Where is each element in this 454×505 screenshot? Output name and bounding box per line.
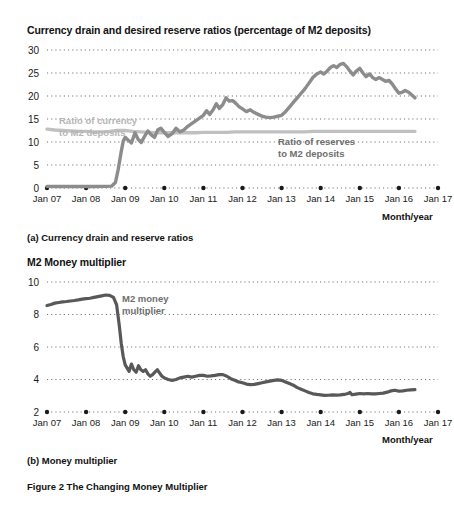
panel-b-title: M2 Money multiplier xyxy=(27,256,126,268)
annotation-reserves-ratio: to M2 deposits xyxy=(278,148,345,159)
x-tick-dot xyxy=(123,410,127,414)
x-tick-label: Jan 09 xyxy=(111,417,140,428)
x-tick-label: Jan 12 xyxy=(228,417,257,428)
x-tick-label: Jan 15 xyxy=(346,417,375,428)
annotation-currency-ratio: to M2 deposits xyxy=(59,127,126,138)
x-tick-dot xyxy=(358,186,362,190)
annotation-reserves-ratio: Ratio of reserves xyxy=(278,136,355,147)
y-tick-label: 10 xyxy=(28,137,40,148)
y-tick-label: 30 xyxy=(28,45,40,56)
x-tick-dot xyxy=(201,186,205,190)
x-tick-dot xyxy=(436,410,440,414)
annotation-money-multiplier: M2 money xyxy=(122,293,169,304)
x-tick-label: Jan 16 xyxy=(385,417,414,428)
x-tick-dot xyxy=(279,186,283,190)
x-tick-dot xyxy=(436,186,440,190)
x-tick-dot xyxy=(201,410,205,414)
x-tick-label: Jan 14 xyxy=(306,193,335,204)
x-tick-label: Jan 10 xyxy=(150,193,179,204)
x-tick-dot xyxy=(319,410,323,414)
series-line xyxy=(47,295,415,395)
x-tick-dot xyxy=(162,186,166,190)
figure-caption: Figure 2 The Changing Money Multiplier xyxy=(27,481,208,492)
annotation-money-multiplier: multiplier xyxy=(122,305,165,316)
x-tick-dot xyxy=(84,410,88,414)
y-tick-label: 4 xyxy=(33,374,39,385)
x-tick-label: Jan 10 xyxy=(150,417,179,428)
x-tick-label: Jan 17 xyxy=(424,417,453,428)
panel-a-caption: (a) Currency drain and reserve ratios xyxy=(27,232,193,243)
y-tick-label: 8 xyxy=(33,309,39,320)
annotation-currency-ratio: Ratio of currency xyxy=(59,115,138,126)
x-tick-label: Jan 11 xyxy=(189,417,217,428)
x-tick-label: Jan 11 xyxy=(189,193,217,204)
x-tick-dot xyxy=(319,186,323,190)
x-tick-label: Jan 15 xyxy=(346,193,375,204)
x-tick-label: Jan 07 xyxy=(33,193,62,204)
x-tick-label: Jan 14 xyxy=(306,417,335,428)
panel-b-chart: 246810Jan 07Jan 08Jan 09Jan 10Jan 11Jan … xyxy=(0,270,454,430)
x-tick-dot xyxy=(397,186,401,190)
y-tick-label: 25 xyxy=(28,68,40,79)
x-tick-dot xyxy=(358,410,362,414)
y-tick-label: 5 xyxy=(33,160,39,171)
x-tick-dot xyxy=(240,410,244,414)
figure-container: Currency drain and desired reserve ratio… xyxy=(0,0,454,505)
y-tick-label: 20 xyxy=(28,91,40,102)
x-tick-label: Jan 12 xyxy=(228,193,257,204)
x-tick-label: Jan 17 xyxy=(424,193,453,204)
panel-b-axis-label: Month/year xyxy=(382,434,433,445)
x-tick-label: Jan 13 xyxy=(267,417,296,428)
panel-b-caption: (b) Money multiplier xyxy=(27,455,117,466)
x-tick-dot xyxy=(397,410,401,414)
panel-a-plot: 051015202530Jan 07Jan 08Jan 09Jan 10Jan … xyxy=(0,40,454,205)
x-tick-label: Jan 08 xyxy=(72,193,101,204)
panel-a-axis-label: Month/year xyxy=(382,211,433,222)
y-tick-label: 10 xyxy=(28,277,40,288)
panel-a-chart: 051015202530Jan 07Jan 08Jan 09Jan 10Jan … xyxy=(0,40,454,205)
panel-a-title: Currency drain and desired reserve ratio… xyxy=(27,24,371,36)
x-tick-dot xyxy=(162,410,166,414)
x-tick-label: Jan 13 xyxy=(267,193,296,204)
x-tick-dot xyxy=(279,410,283,414)
x-tick-label: Jan 16 xyxy=(385,193,414,204)
x-tick-label: Jan 09 xyxy=(111,193,140,204)
x-tick-dot xyxy=(45,410,49,414)
x-tick-dot xyxy=(240,186,244,190)
x-tick-label: Jan 08 xyxy=(72,417,101,428)
panel-b-plot: 246810Jan 07Jan 08Jan 09Jan 10Jan 11Jan … xyxy=(0,270,454,430)
x-tick-dot xyxy=(123,186,127,190)
y-tick-label: 6 xyxy=(33,342,39,353)
x-tick-label: Jan 07 xyxy=(33,417,62,428)
y-tick-label: 15 xyxy=(28,114,40,125)
